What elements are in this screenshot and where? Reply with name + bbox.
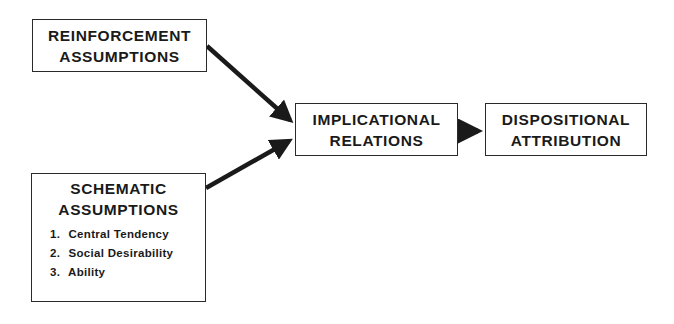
node-dispositional-attribution: DISPOSITIONAL ATTRIBUTION: [485, 103, 647, 156]
node-reinforcement-assumptions: REINFORCEMENT ASSUMPTIONS: [32, 19, 207, 72]
node-title-line: ASSUMPTIONS: [33, 46, 206, 67]
node-title-line: RELATIONS: [296, 130, 457, 151]
item-number: 1.: [50, 225, 65, 244]
item-number: 2.: [50, 244, 65, 263]
item-number: 3.: [50, 263, 65, 282]
item-label: Social Desirability: [69, 247, 174, 259]
arrow-reinforcement-to-implicational: [207, 46, 290, 120]
node-title-line: REINFORCEMENT: [33, 25, 206, 46]
list-item: 1. Central Tendency: [50, 225, 205, 244]
node-title-line: IMPLICATIONAL: [296, 109, 457, 130]
node-implicational-relations: IMPLICATIONAL RELATIONS: [295, 103, 458, 156]
item-label: Ability: [68, 266, 105, 278]
item-label: Central Tendency: [69, 228, 169, 240]
node-title-line: SCHEMATIC: [32, 178, 205, 199]
node-title-line: ASSUMPTIONS: [32, 199, 205, 220]
list-item: 3. Ability: [50, 263, 205, 282]
schematic-items-list: 1. Central Tendency 2. Social Desirabili…: [32, 225, 205, 282]
node-schematic-assumptions: SCHEMATIC ASSUMPTIONS 1. Central Tendenc…: [31, 173, 206, 302]
list-item: 2. Social Desirability: [50, 244, 205, 263]
arrow-schematic-to-implicational: [206, 141, 289, 188]
node-title-line: DISPOSITIONAL: [486, 109, 646, 130]
node-title-line: ATTRIBUTION: [486, 130, 646, 151]
